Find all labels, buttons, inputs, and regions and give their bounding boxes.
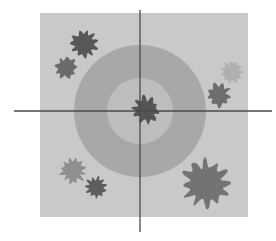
figure-container (0, 0, 276, 241)
scatter-target-plot (0, 0, 276, 241)
